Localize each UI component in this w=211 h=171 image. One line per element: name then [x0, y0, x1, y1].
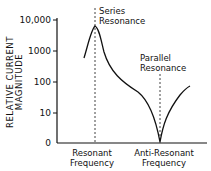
x-tick-label: Anti-Resonant — [134, 148, 194, 158]
y-tick-label: 0 — [45, 138, 51, 148]
series-resonance-label: Series — [99, 6, 126, 16]
y-axis-label: MAGNITUDE — [14, 54, 24, 110]
series-resonance-label: Resonance — [99, 16, 145, 26]
parallel-resonance-label: Parallel — [140, 53, 171, 63]
x-tick-label: Frequency — [142, 158, 186, 168]
resonance-diagram: 10,000 1000 100 10 0 RELATIVE CURRENT MA… — [0, 0, 211, 171]
y-tick-label: 1000 — [28, 46, 51, 56]
current-curve — [84, 26, 190, 142]
y-tick-label: 10 — [40, 108, 52, 118]
x-tick-label: Resonant — [72, 148, 112, 158]
x-tick-label: Frequency — [70, 158, 114, 168]
y-tick-label: 10,000 — [20, 15, 52, 25]
parallel-resonance-label: Resonance — [140, 63, 186, 73]
y-tick-label: 100 — [34, 77, 51, 87]
